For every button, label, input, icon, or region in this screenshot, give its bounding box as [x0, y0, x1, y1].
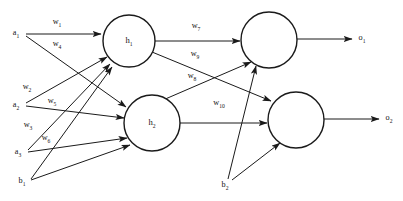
labels-group: h1h2a1a2a3b1b2o1o2w1w4w2w5w3w6w7w9w8w10: [13, 17, 393, 192]
weight-label-w10: w10: [213, 98, 225, 110]
edges-group: [26, 34, 379, 180]
input-label-b1: b1: [19, 176, 26, 188]
weight-label-w7: w7: [192, 21, 201, 33]
output-node-n1: [241, 12, 297, 68]
input-label-a3: a3: [15, 147, 22, 159]
weight-label-w2: w2: [23, 82, 32, 94]
weight-label-w6: w6: [42, 133, 51, 145]
diagram-canvas: h1h2a1a2a3b1b2o1o2w1w4w2w5w3w6w7w9w8w10: [0, 0, 403, 201]
output-label-o1: o1: [359, 33, 366, 45]
weight-label-w8: w8: [188, 71, 197, 83]
weight-label-w4: w4: [53, 39, 62, 51]
neural-network-diagram: h1h2a1a2a3b1b2o1o2w1w4w2w5w3w6w7w9w8w10: [0, 0, 403, 201]
weight-label-w3: w3: [24, 120, 33, 132]
edge-b2-n2: [232, 143, 280, 180]
edge-a3-h1: [28, 64, 110, 150]
input-label-a1: a1: [13, 28, 20, 40]
output-label-o2: o2: [386, 113, 393, 125]
edge-b1-h1: [31, 67, 112, 179]
input-label-a2: a2: [13, 100, 20, 112]
edge-h2-n1: [163, 62, 251, 100]
weight-label-w5: w5: [48, 96, 57, 108]
weight-label-w9: w9: [191, 49, 200, 61]
bias-label-b2: b2: [222, 180, 229, 192]
nodes-group: [103, 12, 324, 151]
edge-a2-h2: [26, 106, 124, 118]
weight-label-w1: w1: [53, 17, 62, 29]
output-node-n2: [268, 92, 324, 148]
edge-b1-h2: [31, 145, 130, 180]
